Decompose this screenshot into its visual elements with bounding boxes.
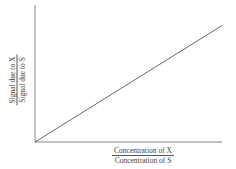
y-label-denominator: Signal due to S — [18, 55, 27, 106]
chart-canvas — [0, 0, 236, 169]
x-label-denominator: Concentration of S — [88, 156, 198, 165]
x-axis-label: Concentration of X Concentration of S — [88, 146, 198, 165]
y-label-numerator: Signal due to X — [8, 55, 18, 106]
calibration-line — [35, 26, 222, 142]
x-label-numerator: Concentration of X — [112, 146, 174, 156]
y-axis-label: Signal due to X Signal due to S — [4, 40, 30, 120]
